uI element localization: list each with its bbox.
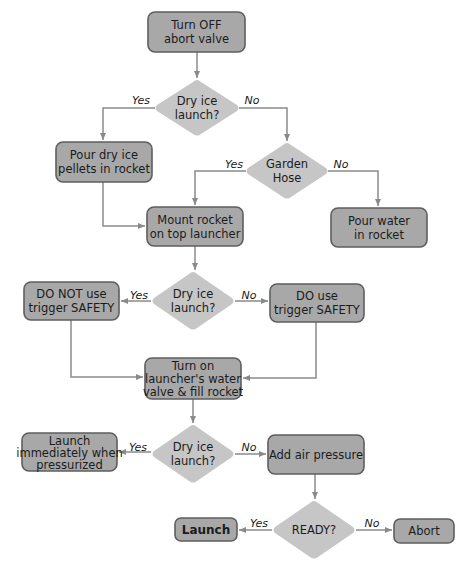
node-label: READY?: [292, 523, 336, 537]
node-do-not-use-trigger-safety: DO NOT use trigger SAFETY: [24, 282, 119, 320]
node-label: Add air pressure: [269, 448, 363, 462]
node-label: trigger SAFETY: [274, 303, 361, 317]
node-label: launch?: [171, 454, 216, 468]
node-label: DO use: [296, 289, 338, 303]
node-label: Dry ice: [173, 287, 214, 301]
node-label: on top launcher: [150, 227, 241, 241]
node-label: Garden: [266, 157, 308, 171]
node-label: Hose: [273, 171, 302, 185]
terminal-abort: Abort: [394, 519, 454, 543]
edge-n5-n7: [71, 320, 143, 377]
node-label: Turn OFF: [170, 18, 221, 32]
branch-yes-d2: Yes: [225, 158, 243, 171]
node-label: Mount rocket: [157, 213, 233, 227]
node-do-use-trigger-safety: DO use trigger SAFETY: [270, 284, 364, 322]
decision-garden-hose: Garden Hose: [247, 143, 328, 199]
branch-no-d5: No: [365, 517, 380, 530]
branch-yes-d3: Yes: [130, 289, 148, 302]
node-label: Abort: [408, 524, 440, 538]
node-label: trigger SAFETY: [29, 301, 116, 315]
decision-dry-ice-launch-3: Dry ice launch?: [153, 425, 234, 483]
node-launch-immediately: Launch immediately when pressurized: [16, 433, 123, 472]
node-label: Pour water: [348, 214, 410, 228]
branch-yes-d1: Yes: [132, 94, 150, 107]
node-label: Dry ice: [173, 440, 214, 454]
branch-no-d1: No: [245, 94, 260, 107]
node-label: launch?: [171, 301, 216, 315]
branch-no-d4: No: [242, 441, 257, 454]
node-label: launch?: [175, 108, 220, 122]
edge-d1-n2: [103, 108, 155, 140]
decision-dry-ice-launch-1: Dry ice launch?: [156, 80, 239, 136]
node-label: Turn on: [171, 359, 214, 373]
edge-n6-n7: [243, 322, 316, 378]
node-label: DO NOT use: [36, 287, 106, 301]
branch-no-d3: No: [242, 289, 257, 302]
branch-yes-d4: Yes: [129, 441, 147, 454]
node-turn-on-water-valve: Turn on launcher's water valve & fill ro…: [143, 358, 244, 399]
node-label: in rocket: [354, 228, 404, 242]
edge-n2-n3: [103, 182, 145, 226]
branch-no-d2: No: [334, 158, 349, 171]
node-label: Launch: [182, 523, 231, 537]
node-label: Dry ice: [177, 94, 218, 108]
edge-d1-d2: [239, 108, 287, 141]
node-label: abort valve: [164, 32, 229, 46]
decision-ready: READY?: [274, 501, 355, 559]
node-mount-rocket: Mount rocket on top launcher: [147, 207, 243, 246]
branch-yes-d5: Yes: [250, 517, 268, 530]
node-label: valve & fill rocket: [143, 385, 244, 399]
node-pour-dry-ice-pellets: Pour dry ice pellets in rocket: [56, 142, 152, 182]
node-label: pellets in rocket: [58, 162, 150, 176]
edge-d2-n4: [328, 171, 378, 206]
decision-dry-ice-launch-2: Dry ice launch?: [153, 272, 234, 330]
edge-d2-n3: [195, 171, 246, 205]
terminal-launch: Launch: [175, 518, 237, 541]
node-label: launcher's water: [145, 372, 241, 386]
node-add-air-pressure: Add air pressure: [268, 435, 364, 474]
node-turn-off-abort-valve: Turn OFF abort valve: [148, 12, 245, 52]
node-label: Pour dry ice: [70, 148, 138, 162]
flowchart: Yes No Yes No Yes No Yes No Yes No Turn …: [0, 0, 471, 577]
node-pour-water: Pour water in rocket: [331, 208, 427, 247]
node-label: pressurized: [36, 458, 102, 472]
